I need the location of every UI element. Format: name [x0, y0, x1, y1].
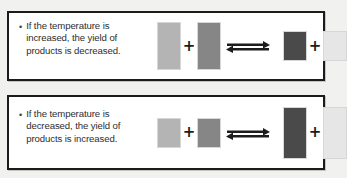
plus-sign-products: + — [307, 39, 323, 54]
statement-text: If the temperature is increased, the yie… — [26, 20, 120, 57]
product-bar-c — [283, 31, 307, 61]
reactant-bar-a — [157, 118, 181, 148]
reaction-diagram: + + — [157, 97, 319, 168]
statement-block: • If the temperature is increased, the y… — [19, 20, 151, 57]
product-bar-c — [283, 107, 307, 159]
panel-temperature-increased: • If the temperature is increased, the y… — [7, 11, 325, 81]
plus-sign-products: + — [307, 125, 323, 140]
reactant-group: + — [157, 118, 221, 148]
reaction-diagram: + + — [157, 13, 319, 79]
equilibrium-double-arrow-icon — [225, 123, 271, 143]
panel-temperature-decreased: • If the temperature is decreased, the y… — [7, 95, 325, 170]
product-group: + — [283, 31, 347, 61]
equilibrium-double-arrow-icon — [225, 36, 271, 56]
reactant-group: + — [157, 22, 221, 70]
product-bar-d — [323, 107, 347, 159]
plus-sign-reactants: + — [181, 39, 197, 54]
plus-sign-reactants: + — [181, 125, 197, 140]
statement-text: If the temperature is decreased, the yie… — [26, 108, 120, 145]
statement-block: • If the temperature is decreased, the y… — [19, 108, 151, 145]
reactant-bar-b — [197, 22, 221, 70]
bullet-icon: • — [19, 20, 22, 34]
reactant-bar-b — [197, 118, 221, 148]
reactant-bar-a — [157, 22, 181, 70]
product-group: + — [283, 107, 347, 159]
product-bar-d — [323, 31, 347, 61]
bullet-icon: • — [19, 108, 22, 122]
